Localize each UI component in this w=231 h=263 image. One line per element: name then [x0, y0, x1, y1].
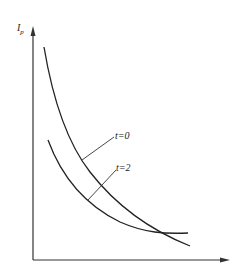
y-axis-label: Ip [16, 22, 24, 36]
chart: Ip t=0 t=2 [0, 0, 231, 263]
annotation-t2: t=2 [116, 162, 131, 173]
leader-t0 [82, 137, 114, 160]
curve-t0 [44, 47, 190, 246]
annotation-t0: t=0 [115, 130, 130, 141]
curve-t2 [48, 140, 188, 233]
axes [31, 26, 231, 263]
x-axis-arrow-icon [220, 258, 230, 263]
y-axis-arrow-icon [31, 26, 36, 36]
